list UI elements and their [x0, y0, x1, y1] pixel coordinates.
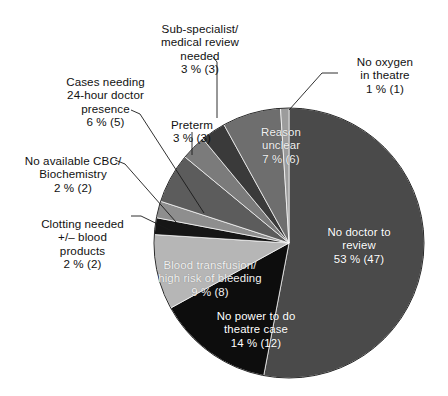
- label-no-oxygen-value: 1 % (1): [366, 82, 404, 95]
- label-no-available-cbc-value: 2 % (2): [54, 181, 92, 194]
- label-reason-unclear-value: 7 % (6): [262, 153, 299, 165]
- label-sub-specialist-text: Sub-specialist/ medical review needed: [161, 22, 239, 62]
- label-preterm: Preterm 3 % (3): [144, 104, 240, 145]
- label-no-power-text: No power to do theatre case: [217, 310, 296, 335]
- label-no-oxygen-text: No oxygen in theatre: [357, 55, 413, 82]
- label-reason-unclear: Reason unclear 7 % (6): [240, 113, 322, 166]
- label-clotting-needed-text: Clotting needed +/– blood products: [41, 217, 124, 257]
- label-preterm-text: Preterm: [171, 118, 213, 131]
- label-no-doctor-value: 53 % (47): [334, 253, 384, 265]
- label-no-power-theatre-case: No power to do theatre case 14 % (12): [193, 297, 319, 350]
- label-no-doctor-to-review: No doctor to review 53 % (47): [305, 213, 413, 266]
- label-blood-transfusion-high-risk-bleeding: Blood transfusion/ high risk of bleeding…: [148, 246, 272, 299]
- label-cases-needing-value: 6 % (5): [86, 115, 124, 128]
- leader-line-no-oxygen-in-theatre-2: [289, 73, 322, 110]
- label-blood-transfusion-text: Blood transfusion/ high risk of bleeding: [158, 259, 261, 284]
- label-no-oxygen-in-theatre: No oxygen in theatre 1 % (1): [330, 41, 440, 95]
- label-no-available-cbc-text: No available CBC/ Biochemistry: [25, 154, 121, 181]
- label-reason-unclear-text: Reason unclear: [261, 126, 301, 151]
- label-clotting-needed-blood-products: Clotting needed +/– blood products 2 % (…: [30, 203, 135, 271]
- pie-chart-figure: Sub-specialist/ medical review needed 3 …: [0, 0, 448, 396]
- label-sub-specialist-value: 3 % (3): [181, 62, 219, 75]
- label-no-doctor-text: No doctor to review: [327, 226, 390, 251]
- label-cases-needing-text: Cases needing 24-hour doctor presence: [66, 75, 145, 115]
- label-preterm-value: 3 % (3): [173, 131, 211, 144]
- label-clotting-needed-value: 2 % (2): [63, 257, 101, 270]
- label-blood-transfusion-value: 9 % (8): [191, 286, 228, 298]
- label-no-power-value: 14 % (12): [231, 337, 281, 349]
- label-no-available-cbc-biochemistry: No available CBC/ Biochemistry 2 % (2): [12, 140, 134, 194]
